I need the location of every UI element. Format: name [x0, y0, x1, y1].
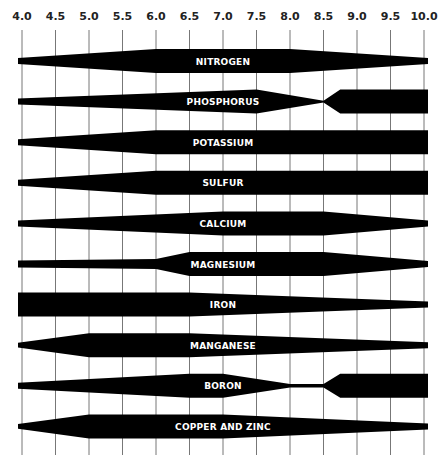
x-axis-tick-labels: 4.04.55.05.56.06.57.07.58.08.59.09.510.0 [12, 10, 438, 23]
band-label: POTASSIUM [193, 138, 254, 148]
x-tick-label: 8.5 [314, 10, 334, 23]
band-calcium: CALCIUM [18, 211, 428, 235]
band-boron: BORON [18, 374, 428, 398]
x-tick-label: 7.0 [213, 10, 233, 23]
band-iron: IRON [18, 293, 428, 317]
band-label: SULFUR [202, 178, 243, 188]
band-label: IRON [210, 300, 236, 310]
band-manganese: MANGANESE [18, 333, 428, 357]
x-tick-label: 5.5 [113, 10, 133, 23]
band-sulfur: SULFUR [18, 171, 428, 195]
band-label: PHOSPHORUS [187, 97, 260, 107]
band-potassium: POTASSIUM [18, 130, 428, 154]
band-label: BORON [204, 381, 242, 391]
band-label: MANGANESE [190, 341, 256, 351]
x-tick-label: 10.0 [410, 10, 437, 23]
x-tick-label: 8.0 [280, 10, 300, 23]
x-tick-label: 7.5 [247, 10, 267, 23]
x-tick-label: 9.5 [381, 10, 401, 23]
x-tick-label: 5.0 [79, 10, 99, 23]
band-phosphorus: PHOSPHORUS [18, 90, 428, 114]
band-copper-and-zinc: COPPER AND ZINC [18, 414, 428, 438]
x-tick-label: 6.5 [180, 10, 200, 23]
band-label: CALCIUM [200, 219, 247, 229]
band-label: NITROGEN [196, 57, 250, 67]
x-tick-label: 4.0 [12, 10, 32, 23]
band-label: MAGNESIUM [191, 260, 256, 270]
x-tick-label: 4.5 [46, 10, 66, 23]
x-tick-label: 9.0 [347, 10, 367, 23]
band-label: COPPER AND ZINC [175, 422, 271, 432]
nutrient-availability-chart: 4.04.55.05.56.06.57.07.58.08.59.09.510.0… [0, 0, 445, 469]
band-nitrogen: NITROGEN [18, 49, 428, 73]
x-tick-label: 6.0 [146, 10, 166, 23]
band-magnesium: MAGNESIUM [18, 252, 428, 276]
